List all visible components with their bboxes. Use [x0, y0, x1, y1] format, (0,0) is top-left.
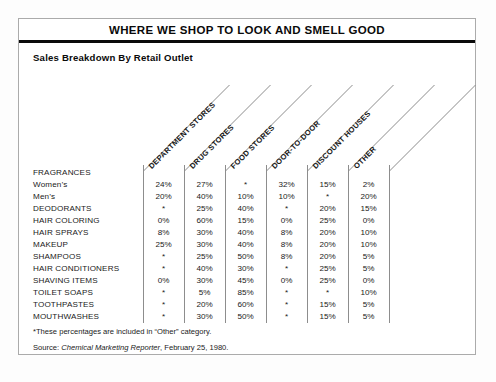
cell-2: 15% [225, 215, 266, 227]
cell-0: 25% [143, 239, 184, 251]
table-row: SHAVING ITEMS0%30%45%0%25%0% [33, 275, 389, 287]
cell-3: 0% [266, 275, 307, 287]
row-label: Men’s [33, 191, 143, 203]
cell-5: 20% [348, 191, 389, 203]
cell-3 [266, 167, 307, 179]
cell-1 [184, 167, 225, 179]
row-label: SHAVING ITEMS [33, 275, 143, 287]
cell-3: * [266, 203, 307, 215]
cell-1: 5% [184, 287, 225, 299]
cell-3: 0% [266, 215, 307, 227]
cell-4: 20% [307, 239, 348, 251]
cell-3: * [266, 263, 307, 275]
cell-3: 8% [266, 227, 307, 239]
source-line: Source: Chemical Marketing Reporter, Feb… [33, 343, 228, 352]
subtitle: Sales Breakdown By Retail Outlet [33, 52, 193, 63]
footnote: *These percentages are included in “Othe… [33, 327, 211, 336]
cell-3: 8% [266, 239, 307, 251]
cell-4: 25% [307, 215, 348, 227]
cell-1: 30% [184, 239, 225, 251]
cell-5: 0% [348, 215, 389, 227]
source-publication: Chemical Marketing Reporter [61, 343, 160, 352]
cell-4: 25% [307, 263, 348, 275]
table-row: HAIR SPRAYS8%30%40%8%20%10% [33, 227, 389, 239]
cell-4: 20% [307, 251, 348, 263]
cell-2 [225, 167, 266, 179]
cell-1: 30% [184, 275, 225, 287]
table-row: TOILET SOAPS*5%85%**10% [33, 287, 389, 299]
cell-3: * [266, 311, 307, 323]
table-row: HAIR CONDITIONERS*40%30%*25%5% [33, 263, 389, 275]
cell-1: 25% [184, 251, 225, 263]
cell-3: * [266, 287, 307, 299]
cell-0: 0% [143, 215, 184, 227]
table-body: FRAGRANCESWomen’s24%27%*32%15%2%Men’s20%… [33, 167, 389, 323]
cell-0: 8% [143, 227, 184, 239]
cell-0: * [143, 299, 184, 311]
figure-frame: WHERE WE SHOP TO LOOK AND SMELL GOOD Sal… [18, 18, 476, 355]
cell-4: 15% [307, 179, 348, 191]
cell-0: * [143, 203, 184, 215]
row-label: MOUTHWASHES [33, 311, 143, 323]
table-row: SHAMPOOS*25%50%8%20%5% [33, 251, 389, 263]
cell-1: 30% [184, 311, 225, 323]
cell-2: 10% [225, 191, 266, 203]
cell-0: * [143, 251, 184, 263]
cell-1: 27% [184, 179, 225, 191]
row-label: TOILET SOAPS [33, 287, 143, 299]
cell-2: 40% [225, 203, 266, 215]
table-row: HAIR COLORING0%60%15%0%25%0% [33, 215, 389, 227]
cell-0: 0% [143, 275, 184, 287]
cell-4: * [307, 287, 348, 299]
row-label: HAIR CONDITIONERS [33, 263, 143, 275]
cell-1: 40% [184, 191, 225, 203]
cell-1: 40% [184, 263, 225, 275]
cell-0: * [143, 311, 184, 323]
cell-2: 30% [225, 263, 266, 275]
page-title: WHERE WE SHOP TO LOOK AND SMELL GOOD [109, 24, 385, 36]
cell-0: 20% [143, 191, 184, 203]
cell-5: 10% [348, 239, 389, 251]
table-row: Women’s24%27%*32%15%2% [33, 179, 389, 191]
cell-4: 20% [307, 227, 348, 239]
cell-0 [143, 167, 184, 179]
cell-1: 60% [184, 215, 225, 227]
cell-3: * [266, 299, 307, 311]
cell-4: 15% [307, 311, 348, 323]
data-table: FRAGRANCESWomen’s24%27%*32%15%2%Men’s20%… [33, 167, 389, 323]
cell-5: 5% [348, 299, 389, 311]
cell-5: 5% [348, 311, 389, 323]
cell-0: * [143, 287, 184, 299]
row-label: HAIR SPRAYS [33, 227, 143, 239]
cell-2: 40% [225, 227, 266, 239]
cell-4: 25% [307, 275, 348, 287]
cell-1: 20% [184, 299, 225, 311]
table-row: MAKEUP25%30%40%8%20%10% [33, 239, 389, 251]
table-row: TOOTHPASTES*20%60%*15%5% [33, 299, 389, 311]
cell-2: 50% [225, 251, 266, 263]
cell-5: 5% [348, 251, 389, 263]
table-row: Men’s20%40%10%10%*20% [33, 191, 389, 203]
cell-0: * [143, 263, 184, 275]
diagonal-header-zone: DEPARTMENT STORESDRUG STORESFOOD STORESD… [19, 79, 475, 171]
cell-5 [348, 167, 389, 179]
page-root: WHERE WE SHOP TO LOOK AND SMELL GOOD Sal… [0, 0, 496, 382]
source-suffix: , February 25, 1980. [160, 343, 228, 352]
cell-2: * [225, 179, 266, 191]
cell-2: 50% [225, 311, 266, 323]
row-label: HAIR COLORING [33, 215, 143, 227]
title-band: WHERE WE SHOP TO LOOK AND SMELL GOOD [19, 19, 475, 43]
table-row: MOUTHWASHES*30%50%*15%5% [33, 311, 389, 323]
cell-5: 10% [348, 227, 389, 239]
row-label: Women’s [33, 179, 143, 191]
cell-4: * [307, 191, 348, 203]
row-label: DEODORANTS [33, 203, 143, 215]
cell-3: 10% [266, 191, 307, 203]
cell-1: 30% [184, 227, 225, 239]
cell-3: 8% [266, 251, 307, 263]
cell-4 [307, 167, 348, 179]
row-label: SHAMPOOS [33, 251, 143, 263]
cell-4: 15% [307, 299, 348, 311]
cell-2: 85% [225, 287, 266, 299]
table-row: FRAGRANCES [33, 167, 389, 179]
